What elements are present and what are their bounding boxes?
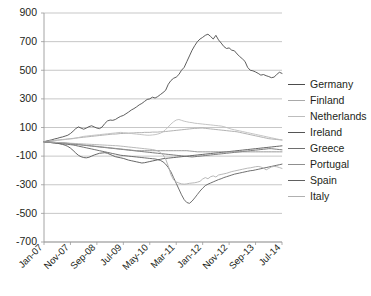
y-tick-label: 900 bbox=[19, 6, 37, 18]
series-line-germany bbox=[44, 34, 282, 142]
legend-swatch-icon bbox=[288, 116, 305, 117]
legend-item-germany[interactable]: Germany bbox=[288, 76, 371, 92]
y-tick-label: -500 bbox=[16, 207, 37, 219]
legend-item-label: Greece bbox=[310, 143, 344, 154]
data-series bbox=[44, 34, 282, 203]
legend-swatch-icon bbox=[288, 148, 305, 149]
legend-swatch-icon bbox=[288, 84, 305, 85]
legend-item-label: Netherlands bbox=[310, 111, 367, 122]
x-tick-label: Nov-12 bbox=[200, 242, 229, 271]
x-tick-label: Mar-11 bbox=[148, 242, 177, 271]
legend-item-ireland[interactable]: Ireland bbox=[288, 124, 371, 140]
x-tick-label: Sep-08 bbox=[68, 242, 97, 271]
legend-item-label: Spain bbox=[310, 175, 337, 186]
legend-swatch-icon bbox=[288, 180, 305, 181]
legend-swatch-icon bbox=[288, 196, 305, 197]
legend-swatch-icon bbox=[288, 164, 305, 165]
legend-item-spain[interactable]: Spain bbox=[288, 173, 371, 189]
legend-item-label: Finland bbox=[310, 95, 344, 106]
x-tick-label: Jul-14 bbox=[256, 242, 282, 268]
x-tick-label: Sep-13 bbox=[227, 242, 256, 271]
y-tick-label: 100 bbox=[19, 121, 37, 133]
line-chart: 900700500300100-100-300-500-700 Jan-07No… bbox=[0, 0, 371, 296]
legend-item-label: Ireland bbox=[310, 127, 342, 138]
x-tick-label: Nov-07 bbox=[41, 242, 70, 271]
y-axis-tick-labels: 900700500300100-100-300-500-700 bbox=[16, 6, 37, 247]
y-tick-label: 500 bbox=[19, 64, 37, 76]
y-tick-label: -100 bbox=[16, 149, 37, 161]
y-tick-label: 700 bbox=[19, 35, 37, 47]
legend-item-label: Portugal bbox=[310, 159, 349, 170]
y-tick-label: 300 bbox=[19, 92, 37, 104]
x-axis-tick-labels: Jan-07Nov-07Sep-08Jul-09May-10Mar-11Jan-… bbox=[16, 242, 282, 272]
legend-item-finland[interactable]: Finland bbox=[288, 92, 371, 108]
y-tick-label: -300 bbox=[16, 178, 37, 190]
legend-swatch-icon bbox=[288, 100, 305, 101]
legend-item-italy[interactable]: Italy bbox=[288, 189, 371, 205]
x-tick-label: Jan-12 bbox=[175, 242, 203, 270]
series-line-finland bbox=[44, 128, 282, 142]
legend-item-label: Germany bbox=[310, 79, 353, 90]
series-line-netherlands bbox=[44, 119, 282, 141]
x-tick-label: May-10 bbox=[120, 242, 150, 272]
legend-item-netherlands[interactable]: Netherlands bbox=[288, 108, 371, 124]
legend-swatch-icon bbox=[288, 132, 305, 133]
legend-item-portugal[interactable]: Portugal bbox=[288, 156, 371, 172]
chart-legend: GermanyFinlandNetherlandsIrelandGreecePo… bbox=[288, 76, 371, 205]
series-line-italy bbox=[44, 142, 282, 184]
legend-item-label: Italy bbox=[310, 191, 329, 202]
legend-item-greece[interactable]: Greece bbox=[288, 140, 371, 156]
